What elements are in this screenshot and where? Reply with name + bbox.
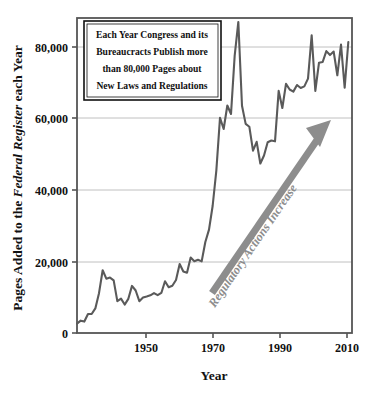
- y-tick-label-40000: 40,000: [35, 184, 68, 198]
- x-tick-label-1990: 1990: [268, 341, 292, 355]
- x-tick-label-2010: 2010: [335, 341, 359, 355]
- y-tick-label-20000: 20,000: [35, 256, 68, 270]
- y-axis-title: Pages Added to the Federal Register each…: [10, 45, 25, 310]
- x-tick-label-1950: 1950: [134, 341, 158, 355]
- x-axis-title: Year: [201, 368, 228, 383]
- x-tick-label-1970: 1970: [201, 341, 225, 355]
- y-axis-title-prefix: Pages Added to the: [10, 197, 25, 310]
- chart-figure: 0 20,000 40,000 60,000 80,000 1950 1970 …: [0, 0, 379, 394]
- annotation-line-3: than 80,000 Pages about: [102, 63, 202, 74]
- y-axis-title-italic: Federal Register: [10, 104, 25, 198]
- annotation-line-4: New Laws and Regulations: [96, 80, 207, 91]
- y-tick-label-0: 0: [62, 327, 68, 341]
- y-axis-title-suffix: each Year: [10, 45, 25, 104]
- annotation-box: Each Year Congress and its Bureaucracts …: [84, 21, 221, 100]
- y-tick-label-60000: 60,000: [35, 112, 68, 126]
- y-tick-label-80000: 80,000: [35, 41, 68, 55]
- annotation-line-2: Bureaucracts Publish more: [96, 46, 208, 57]
- federal-register-line-chart: 0 20,000 40,000 60,000 80,000 1950 1970 …: [0, 0, 379, 394]
- annotation-line-1: Each Year Congress and its: [96, 29, 208, 40]
